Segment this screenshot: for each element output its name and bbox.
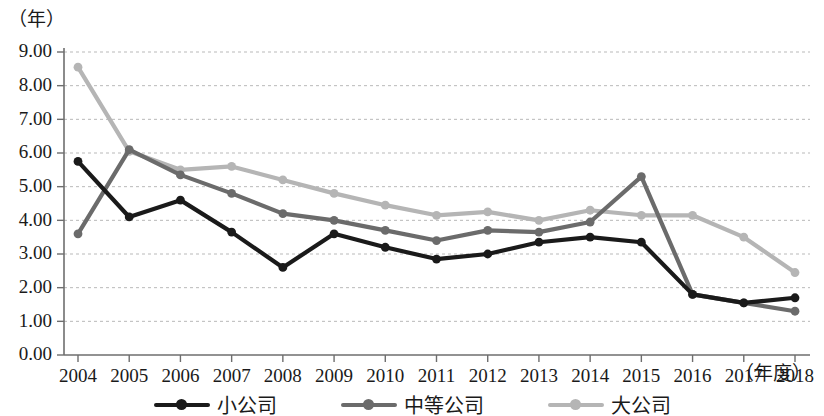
- data-point: [74, 229, 83, 238]
- data-point: [227, 228, 236, 237]
- x-tick-label: 2011: [418, 365, 455, 386]
- data-point: [586, 233, 595, 242]
- legend-label: 中等公司: [404, 390, 484, 416]
- x-tick-label: 2009: [315, 365, 353, 386]
- x-tick-label: 2008: [264, 365, 302, 386]
- data-point: [227, 162, 236, 171]
- y-tick-label: 2.00: [19, 276, 52, 297]
- x-tick-label: 2004: [59, 365, 98, 386]
- data-point: [739, 233, 748, 242]
- data-point: [791, 268, 800, 277]
- x-tick-label: 2014: [571, 365, 610, 386]
- y-tick-label: 8.00: [19, 74, 52, 95]
- data-point: [637, 238, 646, 247]
- y-tick-label: 6.00: [19, 141, 52, 162]
- data-point: [432, 236, 441, 245]
- data-point: [637, 172, 646, 181]
- data-point: [330, 229, 339, 238]
- data-point: [483, 226, 492, 235]
- data-point: [74, 157, 83, 166]
- data-series: [74, 63, 800, 316]
- data-point: [432, 255, 441, 264]
- data-point: [381, 243, 390, 252]
- legend-label: 小公司: [217, 390, 277, 416]
- gridlines: [64, 52, 810, 321]
- legend-item[interactable]: 小公司: [154, 390, 277, 416]
- y-tick-label: 0.00: [19, 343, 52, 364]
- data-point: [791, 307, 800, 316]
- data-point: [432, 211, 441, 220]
- legend-item[interactable]: 中等公司: [341, 390, 484, 416]
- y-tick-label: 5.00: [19, 175, 52, 196]
- y-tick-label: 1.00: [19, 310, 52, 331]
- data-point: [483, 250, 492, 259]
- x-tick-label: 2018: [776, 365, 814, 386]
- data-point: [278, 263, 287, 272]
- data-point: [381, 226, 390, 235]
- legend-swatch-icon: [154, 398, 210, 412]
- data-point: [278, 176, 287, 185]
- data-point: [330, 216, 339, 225]
- data-point: [330, 189, 339, 198]
- line-chart: （年） （年度） 0.001.002.003.004.005.006.007.0…: [0, 0, 824, 416]
- x-tick-label: 2017: [725, 365, 763, 386]
- data-point: [586, 206, 595, 215]
- y-axis-ticks: 0.001.002.003.004.005.006.007.008.009.00: [19, 40, 64, 364]
- data-point: [688, 211, 697, 220]
- data-point: [637, 211, 646, 220]
- data-point: [535, 228, 544, 237]
- x-axis-ticks: 2004200520062007200820092010201120122013…: [59, 355, 814, 386]
- data-point: [176, 196, 185, 205]
- x-tick-label: 2012: [469, 365, 507, 386]
- data-point: [688, 290, 697, 299]
- data-point: [125, 145, 134, 154]
- data-point: [125, 213, 134, 222]
- y-tick-label: 4.00: [19, 209, 52, 230]
- y-tick-label: 9.00: [19, 40, 52, 61]
- data-point: [381, 201, 390, 210]
- y-tick-label: 7.00: [19, 108, 52, 129]
- data-point: [278, 209, 287, 218]
- data-point: [535, 216, 544, 225]
- x-tick-label: 2015: [622, 365, 660, 386]
- data-point: [535, 238, 544, 247]
- x-tick-label: 2010: [366, 365, 404, 386]
- data-point: [227, 189, 236, 198]
- x-tick-label: 2006: [161, 365, 199, 386]
- legend-item[interactable]: 大公司: [548, 390, 671, 416]
- plot-area: 0.001.002.003.004.005.006.007.008.009.00…: [0, 0, 824, 416]
- legend-swatch-icon: [341, 398, 397, 412]
- legend-label: 大公司: [611, 390, 671, 416]
- chart-legend: 小公司中等公司大公司: [0, 390, 824, 416]
- x-tick-label: 2013: [520, 365, 558, 386]
- data-point: [586, 218, 595, 227]
- data-point: [74, 63, 83, 72]
- legend-swatch-icon: [548, 398, 604, 412]
- data-point: [483, 208, 492, 217]
- data-point: [791, 293, 800, 302]
- x-tick-label: 2005: [110, 365, 148, 386]
- x-tick-label: 2007: [213, 365, 251, 386]
- x-tick-label: 2016: [674, 365, 712, 386]
- y-tick-label: 3.00: [19, 242, 52, 263]
- data-point: [739, 298, 748, 307]
- data-point: [176, 170, 185, 179]
